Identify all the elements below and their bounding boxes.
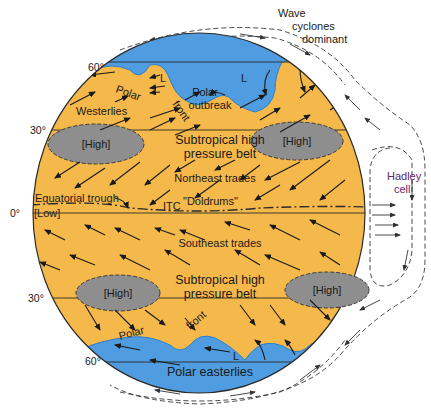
lat-s60: 60° <box>85 355 101 367</box>
southeast-trades-label: Southeast trades <box>178 237 262 249</box>
hadley-cell-label-2: cell <box>394 183 411 195</box>
wave-cyclones-label-3: dominant <box>302 33 347 45</box>
polar-outbreak-label-2: outbreak <box>189 99 232 111</box>
high-label-se: [High] <box>313 284 342 296</box>
equatorial-trough-label: Equatorial trough <box>35 192 119 204</box>
lat-s30: 30° <box>28 292 44 304</box>
lat-n60: 60° <box>88 61 104 73</box>
westerlies-label: Westerlies <box>76 105 128 117</box>
low-label-south: L <box>233 350 239 362</box>
subtropical-label-south-1: Subtropical high <box>175 273 265 287</box>
global-circulation-diagram: 60° 30° 0° 30° 60° Polar outbreak L L Po… <box>0 0 431 412</box>
wave-cyclones-label-2: cyclones <box>292 20 335 32</box>
lat-eq: 0° <box>10 207 20 219</box>
high-label-ne: [High] <box>283 135 312 147</box>
wave-cyclones-label-1: Wave <box>278 7 306 19</box>
polar-easterlies-label: Polar easterlies <box>167 365 253 379</box>
subtropical-label-north-2: pressure belt <box>184 147 257 161</box>
hadley-cell-label-1: Hadley <box>387 170 422 182</box>
northeast-trades-label: Northeast trades <box>174 172 256 184</box>
subtropical-label-south-2: pressure belt <box>184 287 257 301</box>
polar-outbreak-label-1: Polar <box>192 86 218 98</box>
low-label-north-a: L <box>160 72 166 84</box>
low-equator-label: [Low] <box>34 207 60 219</box>
doldrums-label: "Doldrums" <box>183 195 238 207</box>
itc-label: ITC <box>163 200 181 212</box>
lat-n30: 30° <box>30 124 46 136</box>
high-label-nw: [High] <box>82 138 111 150</box>
high-label-sw: [High] <box>104 287 133 299</box>
low-label-north-b: L <box>241 72 247 84</box>
subtropical-label-north-1: Subtropical high <box>175 133 265 147</box>
